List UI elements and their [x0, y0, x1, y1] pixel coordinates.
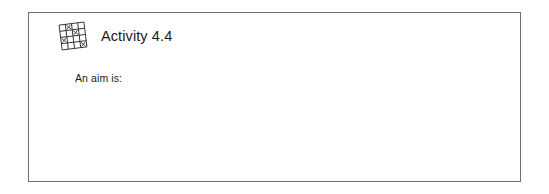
- activity-title: Activity 4.4: [101, 29, 172, 44]
- answer-writing-area[interactable]: [75, 93, 506, 173]
- grid-with-x-marks-icon: [56, 19, 90, 53]
- activity-header: Activity 4.4: [29, 13, 172, 59]
- activity-body: An aim is:: [75, 71, 475, 86]
- activity-prompt-line: An aim is:: [75, 71, 475, 86]
- activity-box: Activity 4.4 An aim is:: [28, 12, 521, 182]
